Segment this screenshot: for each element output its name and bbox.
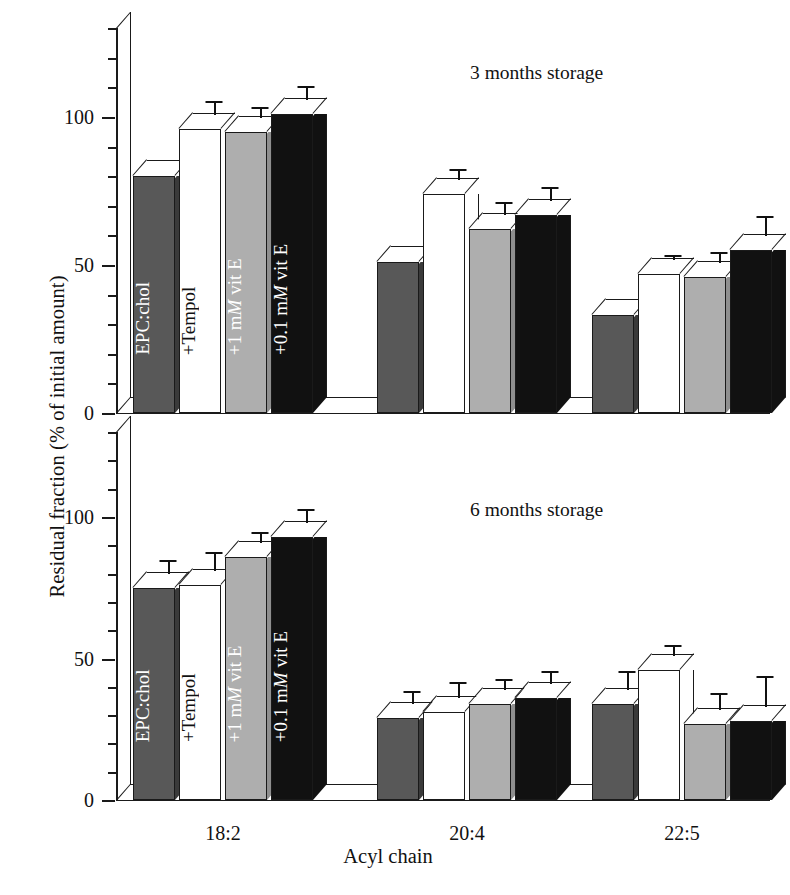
bar-front-face (469, 704, 511, 800)
y-tick-minor (108, 602, 116, 604)
error-bar (250, 532, 270, 542)
bar[interactable] (592, 688, 634, 800)
bar[interactable] (469, 688, 511, 800)
series-label: +Tempol (179, 131, 221, 355)
series-label: EPC:chol (133, 590, 175, 742)
y-tick-minor (108, 354, 116, 356)
y-tick-minor (108, 58, 116, 60)
bar-front-face (423, 712, 465, 800)
error-bar (296, 509, 316, 522)
error-bar-stem (504, 202, 506, 216)
error-bar-cap (757, 216, 774, 218)
y-axis-back-spine (130, 12, 131, 397)
y-tick-minor (108, 460, 116, 462)
bar[interactable] (638, 654, 680, 800)
error-bar-stem (719, 693, 721, 709)
bar-front-face (638, 670, 680, 800)
bar[interactable] (423, 178, 465, 413)
error-bar (663, 255, 683, 260)
panel-3-months: 3 months storage 050100EPC:chol+Tempol+1… (0, 0, 776, 450)
bar[interactable]: +1 mM vit E (225, 116, 267, 413)
error-bar (402, 691, 422, 704)
y-axis-spine (116, 432, 118, 800)
bar[interactable]: +Tempol (179, 113, 221, 413)
error-bar (448, 169, 468, 180)
error-bar-stem (765, 676, 767, 706)
bar[interactable]: +0.1 mM vit E (271, 521, 313, 800)
bar-front-face (423, 194, 465, 413)
bar[interactable]: +1 mM vit E (225, 541, 267, 800)
y-tick-minor (108, 235, 116, 237)
error-bar (540, 187, 560, 201)
bar[interactable] (730, 705, 772, 800)
bar[interactable]: EPC:chol (133, 160, 175, 413)
error-bar (709, 252, 729, 263)
bar[interactable] (684, 708, 726, 800)
bar[interactable] (592, 299, 634, 413)
error-bar (250, 107, 270, 118)
y-tick-minor (108, 28, 116, 30)
y-tick-minor (108, 383, 116, 385)
series-label: EPC:chol (133, 178, 175, 355)
x-tick-label: 18:2 (113, 822, 333, 845)
error-bar-stem (214, 552, 216, 571)
y-tick-minor (108, 574, 116, 576)
series-label: +1 mM vit E (225, 134, 267, 355)
y-tick-minor (108, 630, 116, 632)
bar-side-face (313, 537, 327, 800)
bar[interactable]: +Tempol (179, 569, 221, 800)
y-tick-minor (108, 176, 116, 178)
bar[interactable] (515, 199, 557, 413)
error-bar-cap (450, 682, 467, 684)
bar[interactable] (423, 696, 465, 800)
bar-side-face (772, 721, 786, 800)
error-bar-cap (711, 693, 728, 695)
bar-front-face (684, 724, 726, 800)
error-bar-cap (298, 86, 315, 88)
error-bar (494, 202, 514, 216)
bar[interactable] (684, 261, 726, 413)
error-bar (755, 676, 775, 706)
y-axis-bottom-cap (116, 397, 131, 414)
error-bar-cap (619, 671, 636, 673)
bar[interactable] (730, 234, 772, 413)
x-tick-label: 22:5 (572, 822, 790, 845)
error-bar (617, 671, 637, 690)
bar[interactable] (377, 246, 419, 413)
bar-side-face (557, 698, 571, 800)
bar[interactable] (469, 213, 511, 413)
error-bar (448, 682, 468, 698)
y-tick-major (102, 413, 115, 415)
error-bar (755, 216, 775, 236)
panel-6-months: 6 months storage 050100EPC:chol+Tempol+1… (0, 437, 776, 857)
bar-front-face (730, 721, 772, 800)
y-tick-minor (108, 206, 116, 208)
bar[interactable]: EPC:chol (133, 572, 175, 800)
y-tick-label: 100 (64, 506, 94, 529)
bar[interactable] (638, 258, 680, 413)
y-tick-minor (108, 295, 116, 297)
bar-front-face (469, 229, 511, 413)
error-bar-cap (496, 679, 513, 681)
error-bar-stem (306, 86, 308, 100)
y-tick-minor (108, 489, 116, 491)
floor-right-edge (4, 0, 18, 8)
error-bar-cap (665, 255, 682, 257)
error-bar-cap (404, 691, 421, 693)
error-bar (296, 86, 316, 100)
y-tick-major (102, 117, 115, 119)
error-bar-cap (298, 509, 315, 511)
bar[interactable] (377, 702, 419, 800)
error-bar-cap (711, 252, 728, 254)
y-tick-minor (108, 324, 116, 326)
error-bar (663, 645, 683, 655)
bar-front-face (684, 277, 726, 413)
y-tick-minor (108, 87, 116, 89)
panel-title: 6 months storage (470, 499, 603, 521)
error-bar-stem (214, 101, 216, 115)
bar-front-face (377, 262, 419, 413)
x-tick-label: 20:4 (357, 822, 577, 845)
bar[interactable] (515, 682, 557, 800)
error-bar (494, 679, 514, 689)
bar[interactable]: +0.1 mM vit E (271, 98, 313, 413)
